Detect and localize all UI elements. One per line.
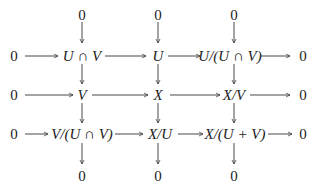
row3-cell-v-quotient: V/(U ∩ V) <box>51 127 113 142</box>
top-zero-3: 0 <box>230 8 238 23</box>
row3-cell-x-mod-sum: X/(U + V) <box>205 127 266 142</box>
row1-left-zero: 0 <box>10 49 18 64</box>
bottom-zero-3: 0 <box>230 169 238 184</box>
bottom-zero-2: 0 <box>154 169 162 184</box>
row2-right-zero: 0 <box>299 88 307 103</box>
row2-cell-v: V <box>77 88 86 103</box>
row1-right-zero: 0 <box>299 49 307 64</box>
row3-cell-x-mod-u: X/U <box>148 127 172 142</box>
row3-left-zero: 0 <box>10 127 18 142</box>
top-zero-1: 0 <box>78 8 86 23</box>
row1-cell-quotient: U/(U ∩ V) <box>198 49 261 64</box>
row3-right-zero: 0 <box>299 127 307 142</box>
row2-cell-x: X <box>153 88 162 103</box>
row1-cell-intersection: U ∩ V <box>63 49 101 64</box>
row1-cell-u: U <box>153 49 164 64</box>
row2-cell-x-mod-v: X/V <box>223 88 246 103</box>
bottom-zero-1: 0 <box>78 169 86 184</box>
top-zero-2: 0 <box>154 8 162 23</box>
row2-left-zero: 0 <box>10 88 18 103</box>
